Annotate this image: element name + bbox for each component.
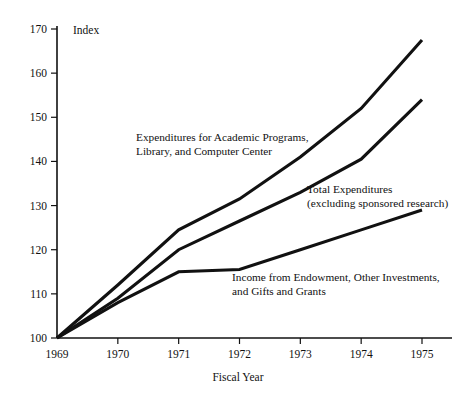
x-tick-labels: 1969197019711972197319741975: [46, 348, 434, 360]
series-annotation-total-expenditures: Total Expenditures (excluding sponsored …: [307, 182, 448, 210]
y-tick-marks: [51, 29, 57, 338]
x-tick-label: 1969: [46, 348, 69, 360]
annotation-line: Library, and Computer Center: [136, 144, 309, 158]
y-tick-label: 170: [30, 23, 48, 35]
annotation-line: Total Expenditures: [307, 182, 448, 196]
annotation-line: Expenditures for Academic Programs,: [136, 130, 309, 144]
x-tick-label: 1972: [228, 348, 251, 360]
y-tick-label: 120: [30, 244, 48, 256]
annotation-line: (excluding sponsored research): [307, 196, 448, 210]
chart-container: 100110120130140150160170 196919701971197…: [0, 0, 463, 403]
x-tick-label: 1973: [289, 348, 312, 360]
x-axis-title: Fiscal Year: [212, 371, 263, 383]
y-tick-label: 160: [30, 67, 48, 79]
y-tick-label: 100: [30, 332, 48, 344]
y-tick-labels: 100110120130140150160170: [30, 23, 48, 344]
series-annotation-income-endowment: Income from Endowment, Other Investments…: [232, 270, 440, 298]
annotation-line: and Gifts and Grants: [232, 284, 440, 298]
x-tick-label: 1971: [167, 348, 190, 360]
y-tick-label: 150: [30, 111, 48, 123]
x-tick-label: 1970: [106, 348, 129, 360]
y-axis-title: Index: [73, 24, 99, 36]
y-tick-label: 110: [30, 288, 47, 300]
x-tick-marks: [118, 338, 422, 344]
series-annotation-academic-programs: Expenditures for Academic Programs, Libr…: [136, 130, 309, 158]
annotation-line: Income from Endowment, Other Investments…: [232, 270, 440, 284]
y-tick-label: 140: [30, 155, 48, 167]
x-tick-label: 1975: [411, 348, 434, 360]
y-tick-label: 130: [30, 200, 48, 212]
x-tick-label: 1974: [350, 348, 373, 360]
